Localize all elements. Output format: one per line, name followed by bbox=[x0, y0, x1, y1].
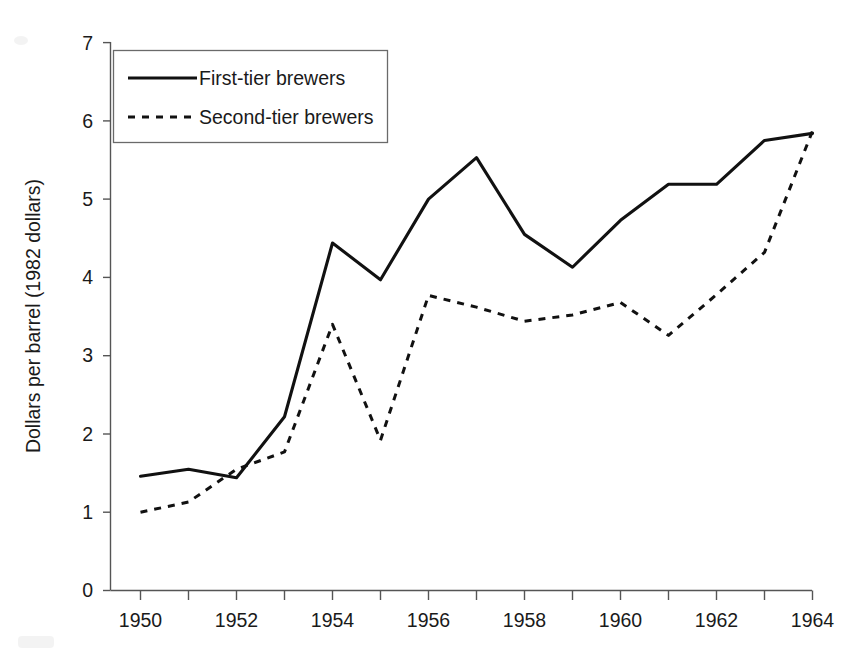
y-tick-label-6: 6 bbox=[82, 110, 93, 132]
x-tick-label-1964: 1964 bbox=[791, 609, 835, 631]
x-tick-label-1960: 1960 bbox=[599, 609, 643, 631]
x-tick-label-1950: 1950 bbox=[119, 609, 163, 631]
x-tick-label-1958: 1958 bbox=[503, 609, 546, 631]
y-tick-label-3: 3 bbox=[82, 344, 93, 366]
series-first-tier-brewers bbox=[141, 133, 813, 477]
series-second-tier-brewers bbox=[141, 131, 813, 512]
legend-label-first-tier: First-tier brewers bbox=[199, 67, 346, 89]
y-axis-tick-labels: 0 1 2 3 4 5 6 7 bbox=[82, 32, 93, 601]
y-tick-label-5: 5 bbox=[82, 188, 93, 210]
line-chart-plot: 0 1 2 3 4 5 6 7 bbox=[0, 0, 841, 662]
y-tick-label-0: 0 bbox=[82, 579, 93, 601]
x-axis-tick-labels: 1950 1952 1954 1956 1958 1960 1962 1964 bbox=[119, 609, 835, 631]
chart-legend: First-tier brewers Second-tier brewers bbox=[114, 51, 388, 143]
y-tick-label-1: 1 bbox=[82, 501, 93, 523]
y-axis-ticks bbox=[103, 43, 111, 591]
x-tick-label-1962: 1962 bbox=[695, 609, 738, 631]
x-tick-label-1952: 1952 bbox=[215, 609, 258, 631]
y-tick-label-7: 7 bbox=[82, 32, 93, 54]
legend-box bbox=[114, 51, 388, 143]
x-tick-label-1956: 1956 bbox=[407, 609, 450, 631]
x-axis-ticks bbox=[141, 591, 813, 601]
y-tick-label-2: 2 bbox=[82, 423, 93, 445]
y-axis-title: Dollars per barrel (1982 dollars) bbox=[22, 179, 44, 453]
x-tick-label-1954: 1954 bbox=[311, 609, 355, 631]
legend-label-second-tier: Second-tier brewers bbox=[199, 106, 374, 128]
y-tick-label-4: 4 bbox=[82, 266, 93, 288]
chart-figure: 0 1 2 3 4 5 6 7 bbox=[0, 0, 841, 662]
